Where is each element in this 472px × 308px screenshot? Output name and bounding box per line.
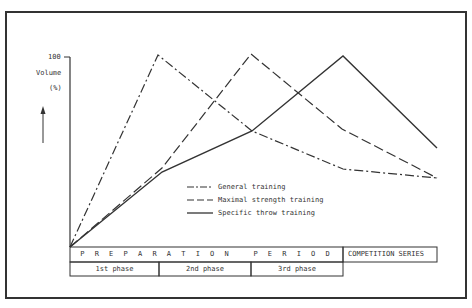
training-volume-chart [0, 0, 472, 308]
legend-label-specific: Specific throw training [218, 209, 315, 217]
y-tick-label: 100 [48, 53, 61, 61]
preparation-period-label: P R E P A R A T I O N P E R I O D [70, 250, 343, 258]
series-general-training [70, 55, 437, 247]
series-specific-throw [70, 56, 437, 247]
y-axis-unit: (%) [49, 84, 62, 92]
phase-1-label: 1st phase [70, 265, 159, 273]
y-axis-label: Volume [36, 69, 61, 77]
phase-2-label: 2nd phase [159, 265, 251, 273]
arrow-head-icon [41, 106, 46, 114]
legend-label-maximal: Maximal strength training [218, 196, 323, 204]
series-maximal-strength [70, 54, 437, 247]
competition-series-label: COMPETITION SERIES [348, 250, 424, 258]
phase-3-label: 3rd phase [251, 265, 343, 273]
legend-label-general: General training [218, 183, 285, 191]
